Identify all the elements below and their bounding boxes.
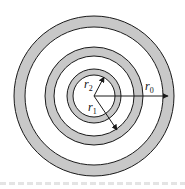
r1-label: r1 xyxy=(88,100,97,116)
r2-label: r2 xyxy=(84,77,93,93)
r0-label: r0 xyxy=(145,79,154,95)
caption-fragment xyxy=(0,178,185,189)
concentric-rings-diagram: r0 r2 r1 xyxy=(0,0,185,189)
r2-arrow xyxy=(94,77,104,96)
